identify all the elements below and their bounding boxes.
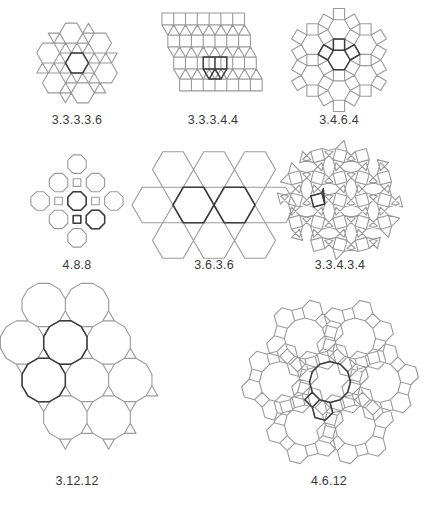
vertex-figure-highlight xyxy=(305,362,351,421)
tiling-label: 4.6.12 xyxy=(269,474,389,488)
tiling-drawing xyxy=(0,0,427,506)
tile-edges xyxy=(242,300,419,463)
